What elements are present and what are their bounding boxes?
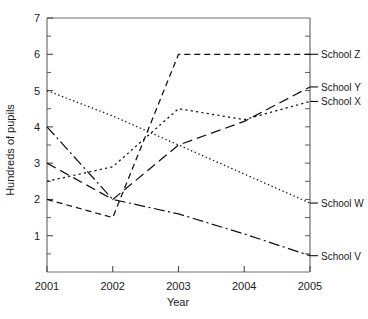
y-tick-label-2: 2 <box>34 193 40 205</box>
series-label-school-y: School Y <box>321 82 361 93</box>
x-axis-title: Year <box>167 296 190 308</box>
series-labels-group: School ZSchool YSchool XSchool WSchool V <box>321 49 364 261</box>
y-tick-label-7: 7 <box>34 12 40 24</box>
y-axis-tick-labels: 1234567 <box>34 12 40 242</box>
line-chart-figure: 1234567 20012002200320042005 School ZSch… <box>0 0 368 319</box>
x-tick-label-2001: 2001 <box>35 280 59 292</box>
series-label-school-z: School Z <box>321 49 360 60</box>
y-tick-label-4: 4 <box>34 121 40 133</box>
y-axis-title: Hundreds of pupils <box>4 104 16 196</box>
series-label-school-x: School X <box>321 96 361 107</box>
x-tick-label-2002: 2002 <box>101 280 125 292</box>
chart-axes <box>47 18 310 272</box>
series-line-school-v <box>47 127 310 256</box>
y-tick-label-3: 3 <box>34 157 40 169</box>
series-label-school-v: School V <box>321 251 361 262</box>
x-tick-label-2005: 2005 <box>298 280 322 292</box>
x-axis-tick-labels: 20012002200320042005 <box>35 280 322 292</box>
series-line-school-z <box>47 54 310 217</box>
chart-canvas: 1234567 20012002200320042005 School ZSch… <box>0 0 368 319</box>
y-tick-label-5: 5 <box>34 85 40 97</box>
series-label-school-w: School W <box>321 198 364 209</box>
series-line-school-y <box>47 87 310 199</box>
x-axis-ticks <box>47 266 310 272</box>
x-tick-label-2004: 2004 <box>232 280 256 292</box>
y-tick-label-1: 1 <box>34 230 40 242</box>
y-axis-ticks-right <box>305 36 310 254</box>
y-axis-ticks <box>47 18 53 254</box>
series-line-school-x <box>47 101 310 181</box>
y-tick-label-6: 6 <box>34 48 40 60</box>
x-tick-label-2003: 2003 <box>166 280 190 292</box>
data-series-group <box>47 54 310 255</box>
series-label-leaders <box>310 54 318 255</box>
